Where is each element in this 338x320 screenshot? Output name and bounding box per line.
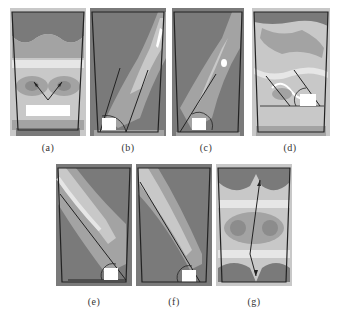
contour-plot-d	[252, 8, 330, 136]
caption-d: (d)	[270, 142, 310, 153]
contour-plot-c	[172, 8, 244, 136]
contour-plot-a	[10, 8, 86, 136]
caption-c: (c)	[186, 142, 226, 153]
contour-plot-b	[90, 8, 166, 136]
panel-d	[252, 8, 330, 136]
caption-a: (a)	[28, 142, 68, 153]
panel-b	[90, 8, 166, 136]
contour-plot-e	[56, 164, 132, 286]
caption-e: (e)	[74, 296, 114, 307]
panel-c	[172, 8, 244, 136]
contour-plot-g	[216, 164, 292, 286]
panel-g	[216, 164, 292, 286]
contour-plot-f	[136, 164, 212, 286]
panel-e	[56, 164, 132, 286]
panel-f	[136, 164, 212, 286]
panel-a	[10, 8, 86, 136]
caption-g: (g)	[234, 296, 274, 307]
caption-b: (b)	[108, 142, 148, 153]
caption-f: (f)	[154, 296, 194, 307]
